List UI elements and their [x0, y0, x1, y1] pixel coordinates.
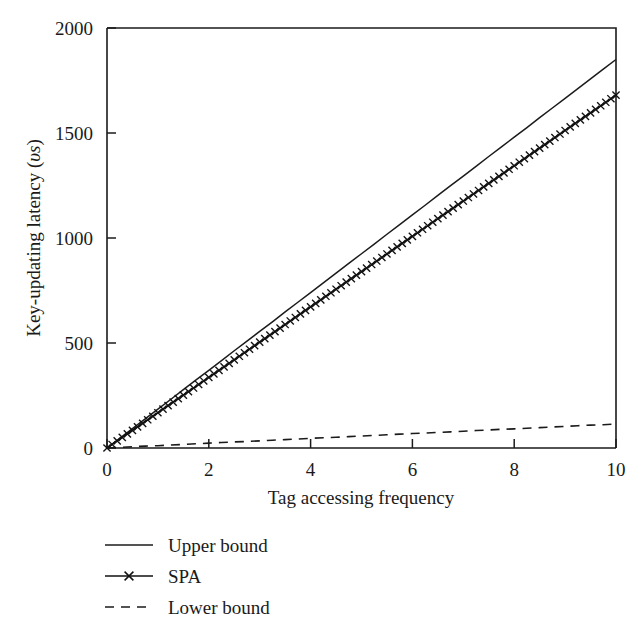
x-tick-label: 10 — [607, 459, 626, 480]
legend-item: Upper bound — [105, 535, 268, 556]
spa-data-marker — [587, 109, 594, 116]
y-tick-label: 1000 — [55, 228, 93, 249]
spa-data-marker — [297, 310, 304, 317]
spa-data-marker — [490, 176, 497, 183]
spa-data-marker — [562, 127, 569, 134]
spa-data-marker — [312, 300, 319, 307]
spa-data-marker — [292, 314, 299, 321]
spa-data-marker — [470, 190, 477, 197]
x-axis-title: Tag accessing frequency — [268, 487, 455, 508]
series-upper-bound — [107, 60, 616, 449]
spa-data-marker — [444, 208, 451, 215]
axis-top-right — [107, 28, 616, 448]
spa-data-marker — [429, 219, 436, 226]
spa-data-marker — [302, 307, 309, 314]
legend-label: Upper bound — [168, 535, 268, 556]
spa-data-marker — [541, 141, 548, 148]
spa-data-marker — [577, 116, 584, 123]
svg-text:Key-updating latency (υs): Key-updating latency (υs) — [23, 139, 45, 337]
spa-data-marker — [205, 374, 212, 381]
spa-data-marker — [495, 173, 502, 180]
spa-data-marker — [572, 120, 579, 127]
spa-data-marker — [271, 328, 278, 335]
y-axis-title-main: Key-updating latency ( — [23, 162, 45, 337]
spa-data-marker — [526, 152, 533, 159]
plot-axes — [107, 28, 616, 448]
legend-label: SPA — [168, 566, 201, 587]
spa-data-marker — [582, 113, 589, 120]
spa-data-marker — [419, 226, 426, 233]
spa-data-marker — [307, 303, 314, 310]
spa-data-marker — [465, 194, 472, 201]
spa-data-marker — [607, 95, 614, 102]
spa-data-marker — [399, 240, 406, 247]
y-tick-label: 2000 — [55, 18, 93, 39]
x-tick-label: 8 — [509, 459, 519, 480]
spa-data-marker — [190, 384, 197, 391]
x-tick-label: 2 — [204, 459, 214, 480]
y-tick-label: 1500 — [55, 123, 93, 144]
spa-data-marker — [195, 381, 202, 388]
y-axis-ticks — [107, 28, 116, 448]
spa-data-marker — [276, 324, 283, 331]
y-tick-label: 0 — [84, 438, 94, 459]
spa-data-marker — [332, 286, 339, 293]
series-lower-bound — [107, 424, 616, 448]
spa-data-marker — [597, 102, 604, 109]
spa-data-marker — [388, 247, 395, 254]
legend-label: Lower bound — [168, 597, 270, 618]
axis-left-bottom — [107, 28, 616, 448]
spa-data-marker — [114, 437, 121, 444]
spa-data-marker — [434, 215, 441, 222]
spa-data-marker — [241, 349, 248, 356]
spa-data-marker — [180, 391, 187, 398]
x-tick-label: 4 — [306, 459, 316, 480]
spa-data-marker — [536, 145, 543, 152]
spa-data-marker — [521, 155, 528, 162]
spa-data-marker — [154, 409, 161, 416]
y-axis-title: Key-updating latency (υs) — [23, 139, 45, 337]
legend-item: SPA — [105, 566, 201, 587]
spa-data-marker — [485, 180, 492, 187]
spa-data-marker — [287, 317, 294, 324]
spa-data-marker — [602, 99, 609, 106]
spa-data-marker — [338, 282, 345, 289]
spa-data-marker — [175, 395, 182, 402]
spa-data-marker — [450, 204, 457, 211]
x-tick-label: 6 — [408, 459, 418, 480]
spa-data-marker — [282, 321, 289, 328]
spa-data-marker — [170, 399, 177, 406]
spa-data-marker — [353, 272, 360, 279]
chart-svg: 0500100015002000 0246810 Tag accessing f… — [0, 0, 641, 632]
spa-data-marker — [455, 201, 462, 208]
spa-data-marker — [363, 264, 370, 271]
y-tick-label: 500 — [65, 333, 94, 354]
spa-data-marker — [215, 367, 222, 374]
spa-data-marker — [546, 137, 553, 144]
spa-data-marker — [424, 222, 431, 229]
spa-marker-group — [103, 92, 619, 452]
spa-data-marker — [343, 279, 350, 286]
spa-data-marker — [185, 388, 192, 395]
spa-data-marker — [348, 275, 355, 282]
y-axis-tick-labels: 0500100015002000 — [55, 18, 93, 459]
spa-data-marker — [373, 257, 380, 264]
chart-figure: 0500100015002000 0246810 Tag accessing f… — [0, 0, 641, 632]
x-tick-label: 0 — [102, 459, 112, 480]
spa-data-marker — [266, 332, 273, 339]
spa-data-marker — [475, 187, 482, 194]
spa-data-marker — [556, 130, 563, 137]
spa-data-marker — [159, 406, 166, 413]
spa-data-marker — [404, 236, 411, 243]
x-axis-tick-labels: 0246810 — [102, 459, 625, 480]
spa-data-marker — [516, 159, 523, 166]
spa-data-marker — [383, 250, 390, 257]
spa-data-marker — [231, 356, 238, 363]
spa-data-marker — [256, 339, 263, 346]
spa-data-marker — [358, 268, 365, 275]
spa-data-marker — [200, 377, 207, 384]
spa-data-marker — [409, 233, 416, 240]
spa-data-marker — [261, 335, 268, 342]
spa-data-marker — [236, 353, 243, 360]
legend-item: Lower bound — [105, 597, 270, 618]
